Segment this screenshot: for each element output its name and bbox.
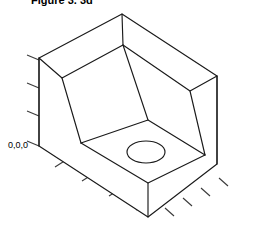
axis-ticks-vertical <box>27 55 39 146</box>
origin-coordinate-label: 0,0,0 <box>8 140 28 150</box>
circular-hole <box>127 141 165 163</box>
figure-container: Figure 3. 3d <box>0 0 259 233</box>
isometric-block-drawing <box>0 0 259 233</box>
